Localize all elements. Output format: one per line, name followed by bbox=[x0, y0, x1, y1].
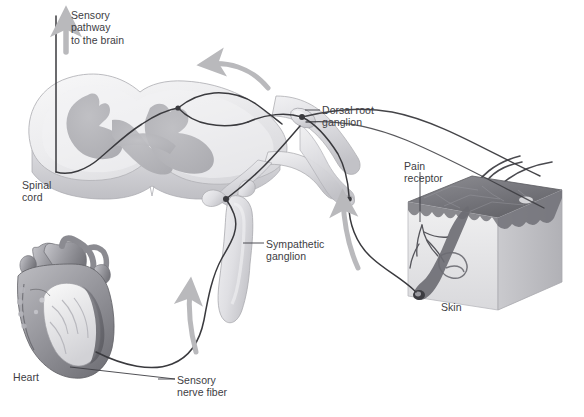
label-pain-receptor: Pain receptor bbox=[404, 160, 443, 185]
label-sensory-pathway: Sensory pathway to the brain bbox=[71, 9, 124, 46]
label-sympathetic-ganglion: Sympathetic ganglion bbox=[266, 238, 324, 263]
arrow-from-skin bbox=[343, 200, 358, 268]
sensory-nerve-fiber-cardiac bbox=[96, 199, 236, 368]
anatomy-illustration bbox=[0, 0, 584, 417]
sympathetic-ganglion-body bbox=[218, 196, 253, 323]
arrow-from-heart bbox=[189, 288, 196, 352]
label-dorsal-root-ganglion: Dorsal root ganglion bbox=[322, 104, 374, 129]
label-sensory-nerve-fiber: Sensory nerve fiber bbox=[177, 374, 227, 399]
label-spinal-cord: Spinal cord bbox=[22, 179, 52, 204]
arrow-along-dorsal-root bbox=[208, 64, 268, 88]
label-heart: Heart bbox=[13, 371, 39, 383]
figure-canvas: Sensory pathway to the brain Spinal cord… bbox=[0, 0, 584, 417]
heart-structure bbox=[17, 238, 114, 378]
fiber-to-skin bbox=[349, 202, 416, 292]
label-skin: Skin bbox=[441, 301, 462, 313]
